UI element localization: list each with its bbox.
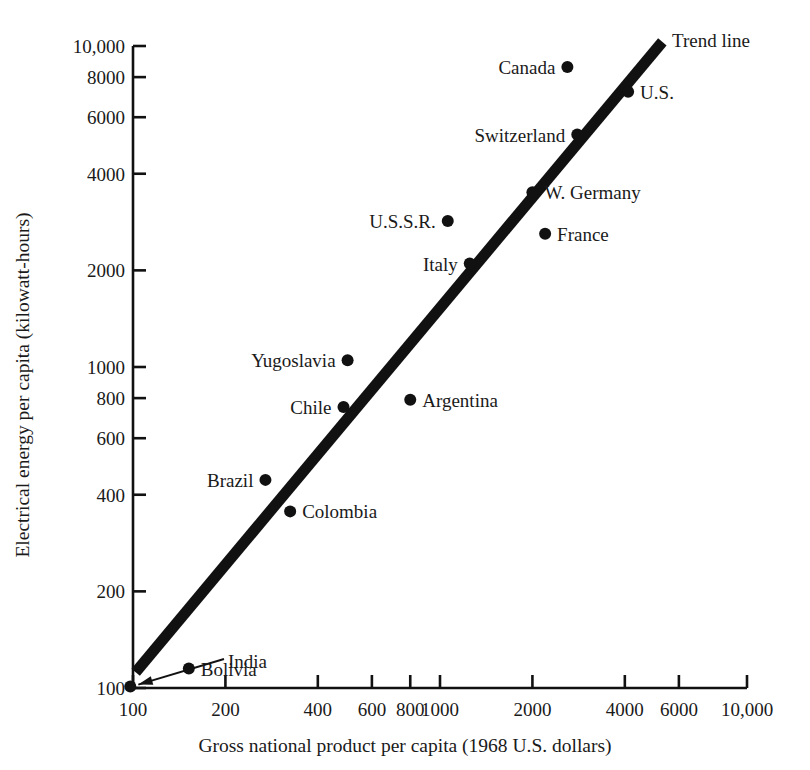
data-point-dot xyxy=(539,228,551,240)
x-tick-label: 600 xyxy=(358,700,387,719)
data-point-label: France xyxy=(557,224,609,243)
data-point-label: Chile xyxy=(290,398,331,417)
tick-marks xyxy=(133,46,747,688)
data-point-dot xyxy=(124,681,136,693)
data-point-dot xyxy=(259,474,271,486)
data-point-dot xyxy=(338,401,350,413)
x-tick-label: 10,000 xyxy=(721,700,773,719)
y-tick-label: 200 xyxy=(0,582,125,601)
data-point-label: India xyxy=(228,652,267,671)
data-point-dot xyxy=(442,215,454,227)
x-axis-title: Gross national product per capita (1968 … xyxy=(198,735,611,757)
y-tick-label: 10,000 xyxy=(0,37,125,56)
x-tick-label: 400 xyxy=(304,700,333,719)
data-point-dot xyxy=(622,86,634,98)
chart-figure: 1002004006008001000200040006000800010,00… xyxy=(0,0,810,770)
data-point-dot xyxy=(404,394,416,406)
data-point-dot xyxy=(571,129,583,141)
data-point-label: Yugoslavia xyxy=(251,351,335,370)
data-point-label: W. Germany xyxy=(544,183,640,202)
data-point-label: Italy xyxy=(423,254,458,273)
data-point-dot xyxy=(526,186,538,198)
trend-line xyxy=(136,42,663,672)
y-tick-label: 100 xyxy=(0,679,125,698)
axis-lines xyxy=(133,46,747,688)
data-point-label: Argentina xyxy=(422,390,498,409)
y-axis-title: Electrical energy per capita (kilowatt-h… xyxy=(12,212,34,557)
data-point-label: Colombia xyxy=(302,502,377,521)
data-point-dot xyxy=(561,61,573,73)
x-tick-label: 200 xyxy=(211,700,240,719)
y-tick-label: 4000 xyxy=(0,164,125,183)
x-tick-label: 1000 xyxy=(421,700,459,719)
trend-line-label: Trend line xyxy=(672,31,750,50)
data-point-label: U.S. xyxy=(640,82,674,101)
data-point-dot xyxy=(342,354,354,366)
x-tick-label: 4000 xyxy=(606,700,644,719)
data-point-label: Canada xyxy=(498,58,555,77)
data-point-dot xyxy=(464,258,476,270)
y-tick-label: 6000 xyxy=(0,108,125,127)
trend-line-stroke xyxy=(136,42,663,672)
data-point-label: Switzerland xyxy=(475,125,566,144)
data-point-dot xyxy=(183,663,195,675)
x-tick-label: 100 xyxy=(119,700,148,719)
leader-line-arrowhead xyxy=(138,676,153,684)
axes xyxy=(133,46,747,688)
data-point-dot xyxy=(284,505,296,517)
data-point-label: Brazil xyxy=(207,470,253,489)
data-point-label: U.S.S.R. xyxy=(369,211,436,230)
y-tick-label: 8000 xyxy=(0,68,125,87)
x-tick-label: 2000 xyxy=(513,700,551,719)
x-tick-label: 6000 xyxy=(660,700,698,719)
